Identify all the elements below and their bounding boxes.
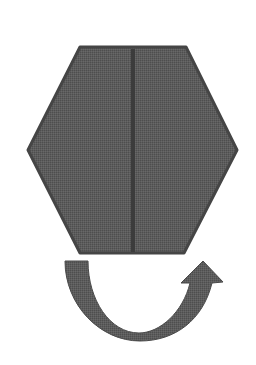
diagram-svg — [0, 0, 256, 365]
diagram-canvas: Hexagon divided by a vertical line, with… — [0, 0, 256, 365]
curved-arrow-icon — [65, 261, 223, 341]
